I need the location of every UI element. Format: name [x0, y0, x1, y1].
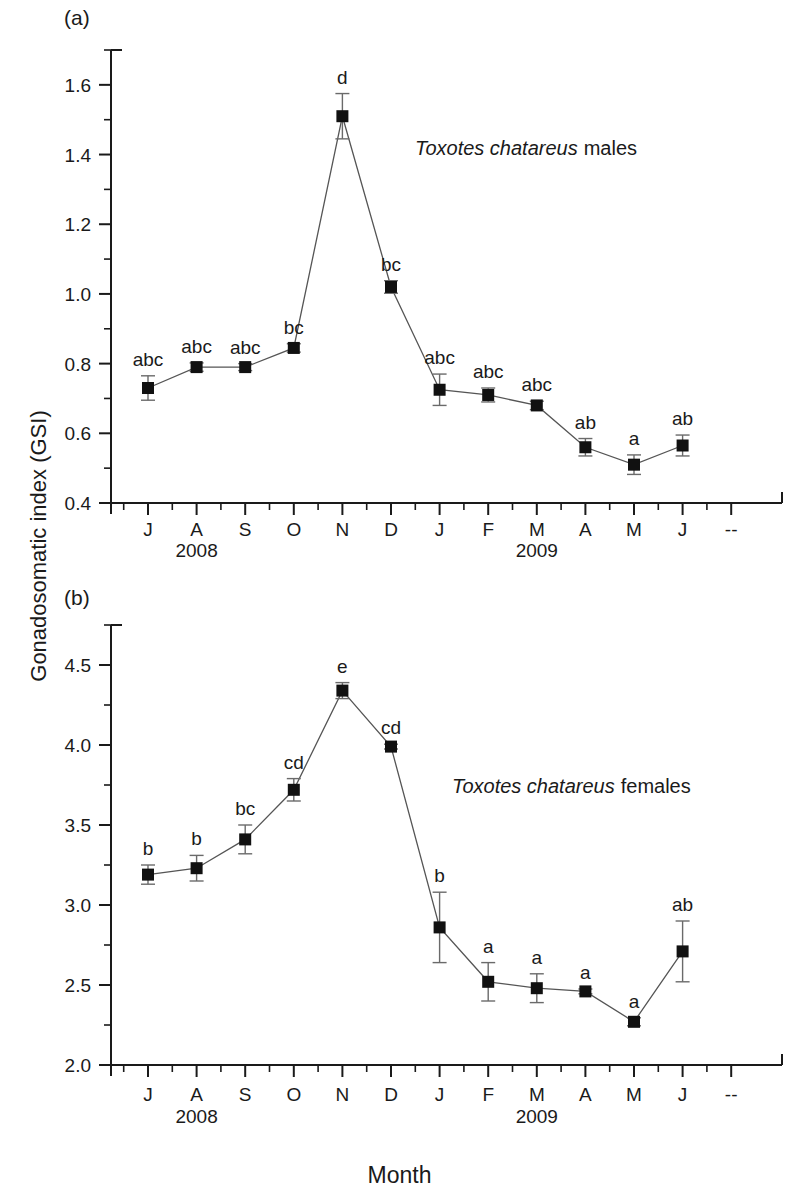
x-tick-label: J [435, 1084, 445, 1105]
data-point-marker [336, 685, 348, 697]
x-tick-label: A [579, 519, 592, 540]
x-axis-title: Month [0, 1162, 799, 1189]
x-tick-label: M [626, 1084, 642, 1105]
x-tick-label: S [239, 1084, 252, 1105]
panel-b-plot: 2.02.53.03.54.04.5JASONDJFMAMJ--20082009… [0, 580, 799, 1155]
data-point-marker [385, 741, 397, 753]
data-point-marker [579, 441, 591, 453]
y-tick-label: 4.5 [65, 655, 91, 676]
significance-letter: b [191, 828, 202, 849]
x-tick-label: O [286, 519, 301, 540]
species-name-italic: Toxotes chatareus [415, 137, 578, 159]
significance-letter: d [337, 67, 348, 88]
series-title: Toxotes chatareusfemales [452, 775, 691, 797]
year-group-label: 2009 [516, 540, 558, 561]
data-series-line [148, 691, 683, 1022]
x-tick-label: A [579, 1084, 592, 1105]
significance-letter: a [629, 991, 640, 1012]
x-tick-label: N [336, 519, 350, 540]
y-tick-label: 2.0 [65, 1055, 91, 1076]
significance-letter: e [337, 656, 348, 677]
axis-end-mark: -- [725, 519, 738, 540]
y-tick-label: 0.8 [65, 354, 91, 375]
data-point-marker [677, 440, 689, 452]
significance-letter: abc [133, 349, 164, 370]
x-tick-label: D [384, 519, 398, 540]
data-point-marker [239, 361, 251, 373]
data-point-marker [288, 342, 300, 354]
data-point-marker [531, 982, 543, 994]
significance-letter: bc [284, 317, 304, 338]
x-tick-label: J [143, 519, 153, 540]
panel-a-plot: 0.40.60.81.01.21.41.6JASONDJFMAMJ--20082… [0, 0, 799, 575]
x-tick-label: M [626, 519, 642, 540]
significance-letter: a [532, 947, 543, 968]
data-point-marker [142, 869, 154, 881]
year-group-label: 2008 [175, 1106, 217, 1127]
x-tick-label: J [678, 519, 688, 540]
significance-letter: abc [230, 337, 261, 358]
x-tick-label: J [143, 1084, 153, 1105]
species-name-italic: Toxotes chatareus [452, 775, 615, 797]
sex-label: females [621, 775, 691, 797]
data-point-marker [434, 921, 446, 933]
significance-letter: bc [381, 254, 401, 275]
data-point-marker [579, 985, 591, 997]
y-tick-label: 2.5 [65, 975, 91, 996]
significance-letter: b [143, 838, 154, 859]
x-tick-label: O [286, 1084, 301, 1105]
y-tick-label: 1.6 [65, 75, 91, 96]
significance-letter: cd [381, 717, 401, 738]
year-group-label: 2008 [175, 540, 217, 561]
x-tick-label: D [384, 1084, 398, 1105]
y-tick-label: 0.4 [65, 493, 92, 514]
significance-letter: bc [235, 798, 255, 819]
significance-letter: abc [424, 347, 455, 368]
y-tick-label: 1.2 [65, 214, 91, 235]
y-tick-label: 4.0 [65, 735, 91, 756]
x-tick-label: F [482, 1084, 494, 1105]
data-point-marker [142, 382, 154, 394]
data-point-marker [191, 361, 203, 373]
y-tick-label: 3.5 [65, 815, 91, 836]
significance-letter: ab [672, 408, 693, 429]
significance-letter: a [580, 962, 591, 983]
significance-letter: abc [181, 336, 212, 357]
year-group-label: 2009 [516, 1106, 558, 1127]
significance-letter: ab [672, 894, 693, 915]
x-tick-label: F [482, 519, 494, 540]
x-tick-label: J [435, 519, 445, 540]
x-tick-label: M [529, 519, 545, 540]
x-tick-label: S [239, 519, 252, 540]
significance-letter: b [434, 865, 445, 886]
y-tick-label: 3.0 [65, 895, 91, 916]
data-point-marker [288, 784, 300, 796]
data-point-marker [628, 1016, 640, 1028]
data-point-marker [677, 945, 689, 957]
significance-letter: a [629, 428, 640, 449]
data-point-marker [239, 833, 251, 845]
x-tick-label: M [529, 1084, 545, 1105]
axis-end-mark: -- [725, 1084, 738, 1105]
data-point-marker [191, 862, 203, 874]
x-tick-label: J [678, 1084, 688, 1105]
data-point-marker [385, 281, 397, 293]
y-tick-label: 1.4 [65, 145, 92, 166]
significance-letter: a [483, 936, 494, 957]
x-tick-label: N [336, 1084, 350, 1105]
x-tick-label: A [190, 1084, 203, 1105]
data-point-marker [336, 110, 348, 122]
data-point-marker [482, 389, 494, 401]
y-tick-label: 1.0 [65, 284, 91, 305]
data-series-line [148, 116, 683, 464]
data-point-marker [531, 399, 543, 411]
figure-container: Gonadosomatic index (GSI) (a) (b) Month … [0, 0, 799, 1202]
data-point-marker [628, 459, 640, 471]
significance-letter: abc [521, 374, 552, 395]
significance-letter: abc [473, 361, 504, 382]
sex-label: males [584, 137, 637, 159]
x-tick-label: A [190, 519, 203, 540]
series-title: Toxotes chatareusmales [415, 137, 637, 159]
data-point-marker [482, 976, 494, 988]
significance-letter: cd [284, 752, 304, 773]
